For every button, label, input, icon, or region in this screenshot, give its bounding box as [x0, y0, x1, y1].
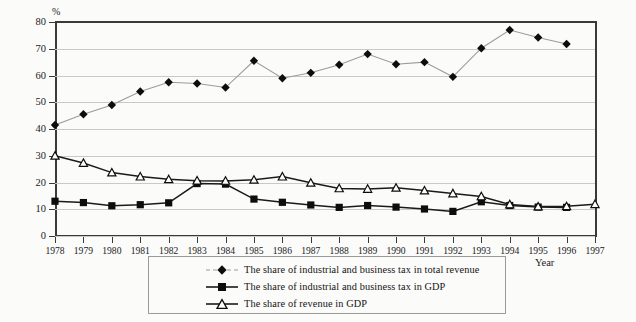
legend-label: The share of industrial and business tax…	[244, 264, 479, 275]
diamond-marker	[51, 121, 59, 129]
x-axis-tick	[140, 237, 141, 243]
square-marker	[108, 202, 115, 209]
square-marker	[421, 205, 428, 212]
x-axis-tick	[254, 237, 255, 243]
x-axis-tick-label: 1994	[500, 246, 519, 256]
x-axis-tick	[282, 237, 283, 243]
x-axis-tick-label: 1980	[102, 246, 121, 256]
x-axis-tick-label: 1992	[443, 246, 462, 256]
x-axis-tick	[567, 237, 568, 243]
legend-item-total-revenue: The share of industrial and business tax…	[149, 261, 505, 278]
x-axis-tick-label: 1991	[415, 246, 434, 256]
series-line	[55, 30, 567, 125]
legend-label: The share of industrial and business tax…	[244, 281, 445, 292]
diamond-marker	[193, 79, 201, 87]
y-axis-tick-label: 10	[36, 204, 47, 215]
x-axis-tick	[311, 237, 312, 243]
series-line	[55, 156, 595, 207]
x-axis-tick-label: 1997	[585, 246, 604, 256]
x-axis-tick-label: 1982	[159, 246, 178, 256]
triangle-marker-icon	[205, 297, 239, 311]
x-axis-tick-label: 1979	[74, 246, 93, 256]
x-axis-tick	[424, 237, 425, 243]
x-axis-tick-label: 1987	[301, 246, 320, 256]
square-marker	[279, 199, 286, 206]
plot-area: 01020304050607080	[55, 22, 595, 236]
x-axis-tick-label: 1986	[273, 246, 292, 256]
x-axis-tick	[510, 237, 511, 243]
diamond-marker	[79, 110, 87, 118]
chart-figure: % 01020304050607080 19781979198019811982…	[0, 0, 636, 322]
y-axis-tick-label: 30	[36, 151, 47, 162]
square-marker	[307, 201, 314, 208]
x-axis-tick	[595, 237, 596, 243]
x-axis-tick	[83, 237, 84, 243]
diamond-marker	[562, 40, 570, 48]
diamond-marker	[307, 69, 315, 77]
series-1	[51, 26, 571, 129]
x-axis-title: Year	[535, 257, 554, 268]
square-marker	[250, 195, 257, 202]
x-axis-tick-label: 1978	[45, 246, 64, 256]
diamond-marker	[506, 26, 514, 34]
x-axis-tick-label: 1985	[244, 246, 263, 256]
square-marker-icon	[205, 280, 239, 294]
y-axis-tick-label: 50	[36, 97, 47, 108]
y-axis-tick-label: 60	[36, 70, 47, 81]
y-axis-tick-label: 70	[36, 44, 47, 55]
x-axis-tick	[538, 237, 539, 243]
y-axis-unit-label: %	[52, 6, 60, 17]
x-axis-tick	[197, 237, 198, 243]
series-3	[51, 152, 599, 210]
x-axis-tick-label: 1981	[131, 246, 150, 256]
series-layer	[55, 22, 595, 236]
square-marker	[449, 208, 456, 215]
x-axis-tick-label: 1983	[188, 246, 207, 256]
x-axis-tick	[226, 237, 227, 243]
square-marker	[392, 204, 399, 211]
x-axis-tick	[55, 237, 56, 243]
x-axis-tick	[112, 237, 113, 243]
x-axis-tick	[368, 237, 369, 243]
diamond-marker	[363, 50, 371, 58]
x-axis-tick	[396, 237, 397, 243]
x-axis-tick	[339, 237, 340, 243]
x-axis-tick-label: 1995	[529, 246, 548, 256]
y-axis-tick-label: 40	[36, 124, 47, 135]
square-marker	[364, 202, 371, 209]
diamond-marker	[164, 78, 172, 86]
legend-item-tax-in-gdp: The share of industrial and business tax…	[149, 278, 505, 295]
diamond-marker	[392, 60, 400, 68]
x-axis-tick-label: 1984	[216, 246, 235, 256]
x-axis-tick	[453, 237, 454, 243]
square-marker	[137, 201, 144, 208]
y-axis-tick-label: 20	[36, 177, 47, 188]
diamond-marker-icon	[205, 263, 239, 277]
x-axis-tick	[481, 237, 482, 243]
x-axis-tick	[169, 237, 170, 243]
square-marker	[336, 204, 343, 211]
x-axis-tick-label: 1989	[358, 246, 377, 256]
square-marker	[51, 198, 58, 205]
diamond-marker	[534, 33, 542, 41]
y-axis-tick-label: 0	[41, 231, 46, 242]
x-axis-tick-label: 1996	[557, 246, 576, 256]
x-axis-tick-label: 1990	[386, 246, 405, 256]
diamond-marker	[108, 101, 116, 109]
diamond-marker	[420, 58, 428, 66]
chart-legend: The share of industrial and business tax…	[148, 256, 506, 314]
x-axis-tick-label: 1988	[330, 246, 349, 256]
legend-item-revenue-in-gdp: The share of revenue in GDP	[149, 295, 505, 312]
diamond-marker	[136, 87, 144, 95]
square-marker	[165, 199, 172, 206]
diamond-marker	[278, 74, 286, 82]
y-axis-tick-label: 80	[36, 17, 47, 28]
legend-label: The share of revenue in GDP	[244, 298, 367, 309]
diamond-marker	[335, 61, 343, 69]
square-marker	[80, 199, 87, 206]
x-axis-tick-label: 1993	[472, 246, 491, 256]
